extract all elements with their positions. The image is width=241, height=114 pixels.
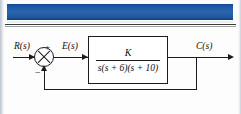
output-wire xyxy=(168,57,231,58)
horizontal-rule-thick xyxy=(5,24,236,25)
transfer-function-fraction: K s(s + 6)(s + 10) xyxy=(89,37,167,83)
error-signal-label: E(s) xyxy=(62,41,78,52)
page-gutter-right xyxy=(238,0,241,114)
summing-junction xyxy=(34,47,54,67)
feedback-wire-vertical-right xyxy=(196,57,197,90)
input-signal-label: R(s) xyxy=(14,41,30,52)
transfer-function-block: K s(s + 6)(s + 10) xyxy=(88,36,168,84)
transfer-function-numerator: K xyxy=(125,47,132,59)
figure-caption: FIGURE 8.17 xyxy=(8,105,233,114)
horizontal-rule-thin xyxy=(5,26,236,27)
page-gutter-left xyxy=(0,0,4,114)
output-signal-label: C(s) xyxy=(196,41,212,52)
banner-underline xyxy=(7,21,233,23)
figure-page: R(s) + − E(s) K s(s + 6)(s + 10) C(s) FI… xyxy=(0,0,241,114)
feedback-wire-horizontal xyxy=(44,89,197,90)
feedback-arrowhead xyxy=(41,65,47,71)
fraction-bar xyxy=(96,60,160,61)
blue-banner xyxy=(7,4,233,20)
output-arrowhead xyxy=(228,54,234,60)
transfer-function-denominator: s(s + 6)(s + 10) xyxy=(98,62,158,74)
figure-caption-label: FIGURE 8.17 xyxy=(8,112,55,114)
